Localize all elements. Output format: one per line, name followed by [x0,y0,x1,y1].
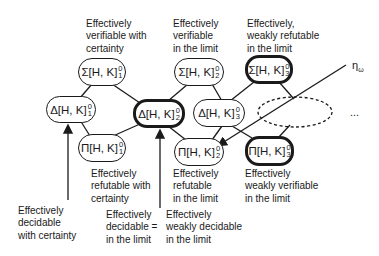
subscript: 1 [88,110,92,117]
label-line: refutable [173,180,218,192]
node-pi1: Π[H, K]01 [78,134,126,162]
label-pi3: Effectively weakly verifiable in the lim… [245,168,318,205]
node-pi2: Π[H, K]02 [174,138,224,166]
subscript: 3 [285,70,289,77]
node-sigma2: Σ[H, K]02 [174,58,224,86]
label-line: Effectively [106,209,157,221]
label-delta1: Effectively decidable with certainty [18,205,76,242]
label-line: with certainty [18,230,76,242]
label-pi1: Effectively refutable with certainty [91,168,150,205]
label-line: verifiable [173,30,218,42]
node-delta2: Δ[H, K]02 [133,99,185,128]
ellipsis: ... [350,106,359,118]
label-line: in the limit [106,234,157,246]
label-line: Effectively [18,205,76,217]
label-line: in the limit [173,43,218,55]
label-line: Effectively [173,18,218,30]
node-delta3: Δ[H, K]03 [193,99,245,127]
node-delta1: Δ[H, K]01 [46,96,96,123]
node-pi3-symbol: Π[H, K] [248,145,285,157]
label-line: in the limit [173,193,218,205]
label-line: refutable with [91,180,150,192]
label-line: in the limit [245,193,318,205]
label-line: decidable [18,217,76,229]
omega-subscript: ω [358,66,363,73]
label-delta2: Effectively decidable = in the limit [106,209,157,246]
label-line: decidable = [106,221,157,233]
label-pi2: Effectively refutable in the limit [173,168,218,205]
label-line: Effectively [91,168,150,180]
node-sigma3-symbol: Σ[H, K] [248,64,284,76]
node-pi3: Π[H, K]03 [245,136,294,166]
label-line: in the limit [166,234,242,246]
node-delta1-symbol: Δ[H, K] [50,104,86,116]
subscript: 1 [118,72,122,79]
node-sigma2-symbol: Σ[H, K] [178,66,214,78]
unexplored-class-node [258,97,332,127]
node-sigma3: Σ[H, K]03 [245,55,293,84]
label-line: weakly verifiable [245,180,318,192]
subscript: 1 [119,148,123,155]
label-sigma1: Effectively verifiable with certainty [86,18,147,55]
label-line: weakly decidable [166,221,242,233]
label-line: certainty [86,43,147,55]
subscript: 2 [215,72,219,79]
subscript: 2 [176,114,180,121]
label-line: in the limit [247,43,319,55]
label-line: Effectively, [247,18,319,30]
label-line: Effectively [166,209,242,221]
label-weakly-decidable: Effectively weakly decidable in the limi… [166,209,242,246]
subscript: 3 [286,151,290,158]
node-sigma1: Σ[H, K]01 [78,58,126,86]
subscript: 2 [216,152,220,159]
eta-omega-label: ηω [352,59,364,76]
subscript: 3 [236,113,240,120]
label-line: Effectively [245,168,318,180]
label-sigma3: Effectively, weakly refutable in the lim… [247,18,319,55]
node-pi1-symbol: Π[H, K] [81,142,118,154]
label-line: weakly refutable [247,30,319,42]
node-sigma1-symbol: Σ[H, K] [81,66,117,78]
label-sigma2: Effectively verifiable in the limit [173,18,218,55]
label-line: Effectively [173,168,218,180]
label-line: Effectively [86,18,147,30]
node-delta2-symbol: Δ[H, K] [138,108,174,120]
node-pi2-symbol: Π[H, K] [178,146,215,158]
label-line: verifiable with [86,30,147,42]
label-line: certainty [91,193,150,205]
node-delta3-symbol: Δ[H, K] [198,107,234,119]
